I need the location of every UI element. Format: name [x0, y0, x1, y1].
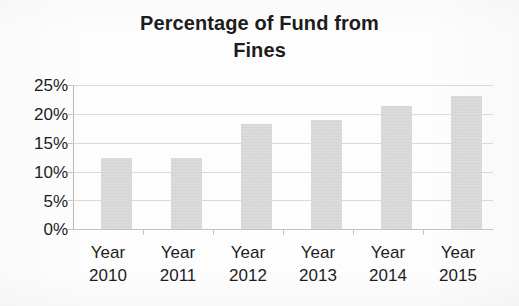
x-tick-mark-4 — [353, 230, 354, 235]
y-tick-label-20: 20% — [2, 106, 68, 123]
y-tick-label-15: 15% — [2, 135, 68, 152]
plot-area — [73, 85, 493, 229]
bar-year-2015 — [451, 96, 482, 229]
chart-title-line-2: Fines — [0, 37, 519, 64]
x-label-year-2013-line-2: 2013 — [283, 264, 353, 287]
x-label-year-2011-line-1: Year — [143, 241, 213, 264]
x-tick-mark-1 — [143, 230, 144, 235]
gridline-25 — [73, 85, 493, 86]
x-tick-mark-5 — [423, 230, 424, 235]
gridline-5 — [73, 200, 493, 201]
y-tick-label-25: 25% — [2, 77, 68, 94]
chart-screenshot: Percentage of Fund from Fines 25% 20% 15… — [0, 0, 519, 306]
x-label-year-2011-line-2: 2011 — [143, 264, 213, 287]
x-label-year-2014: Year 2014 — [353, 241, 423, 287]
gridline-20 — [73, 114, 493, 115]
x-label-year-2010-line-1: Year — [73, 241, 143, 264]
x-tick-mark-3 — [283, 230, 284, 235]
x-label-year-2013: Year 2013 — [283, 241, 353, 287]
x-label-year-2015-line-2: 2015 — [423, 264, 493, 287]
x-label-year-2013-line-1: Year — [283, 241, 353, 264]
x-label-year-2012-line-1: Year — [213, 241, 283, 264]
x-label-year-2012-line-2: 2012 — [213, 264, 283, 287]
bar-year-2011 — [171, 158, 202, 229]
x-label-year-2010-line-2: 2010 — [73, 264, 143, 287]
x-label-year-2014-line-1: Year — [353, 241, 423, 264]
chart-title: Percentage of Fund from Fines — [0, 10, 519, 64]
bar-year-2013 — [311, 120, 342, 229]
x-label-year-2011: Year 2011 — [143, 241, 213, 287]
gridline-10 — [73, 172, 493, 173]
y-tick-label-10: 10% — [2, 164, 68, 181]
x-label-year-2014-line-2: 2014 — [353, 264, 423, 287]
y-tick-label-5: 5% — [2, 193, 68, 210]
y-tick-label-0: 0% — [2, 221, 68, 238]
x-tick-mark-2 — [213, 230, 214, 235]
gridline-15 — [73, 143, 493, 144]
y-axis: 25% 20% 15% 10% 5% 0% — [0, 0, 68, 306]
x-label-year-2012: Year 2012 — [213, 241, 283, 287]
chart-title-line-1: Percentage of Fund from — [0, 10, 519, 37]
x-label-year-2015: Year 2015 — [423, 241, 493, 287]
bar-year-2014 — [381, 106, 412, 229]
x-label-year-2010: Year 2010 — [73, 241, 143, 287]
bar-year-2012 — [241, 124, 272, 229]
bar-year-2010 — [101, 158, 132, 229]
x-label-year-2015-line-1: Year — [423, 241, 493, 264]
